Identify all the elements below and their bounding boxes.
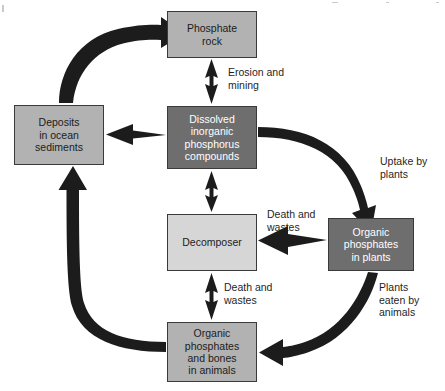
node-dissolved-inorganic-phosphorus: Dissolved inorganic phosphorus compounds <box>167 106 257 169</box>
edge-label-plants-eaten-by-animals: Plants eaten by animals <box>379 281 419 319</box>
edge-animals-to-decomposer <box>205 273 218 320</box>
edge-phosphate-rock-to-dissolved <box>205 59 218 104</box>
node-deposits-ocean-sediments-label: Deposits in ocean sediments <box>15 116 103 153</box>
edge-dissolved-to-decomposer <box>205 171 218 212</box>
edge-dissolved-to-deposits <box>106 124 166 145</box>
edge-label-death-and-wastes-animals: Death and wastes <box>224 281 272 306</box>
node-organic-phosphates-bones-in-animals: Organic phosphates and bones in animals <box>167 322 257 382</box>
node-organic-phosphates-bones-in-animals-label: Organic phosphates and bones in animals <box>168 327 256 377</box>
node-decomposer-label: Decomposer <box>168 236 256 248</box>
edge-label-erosion-and-mining: Erosion and mining <box>228 66 284 91</box>
scan-artifact <box>436 2 439 3</box>
node-deposits-ocean-sediments: Deposits in ocean sediments <box>14 105 104 165</box>
node-phosphate-rock-label: Phosphate rock <box>168 22 256 47</box>
node-decomposer: Decomposer <box>167 214 257 271</box>
edge-animals-to-deposits <box>59 166 167 352</box>
scan-artifact <box>386 2 389 3</box>
node-organic-phosphates-in-plants: Organic phosphates in plants <box>328 218 414 271</box>
edge-plants-to-animals <box>259 272 378 366</box>
node-organic-phosphates-in-plants-label: Organic phosphates in plants <box>329 226 413 263</box>
node-dissolved-inorganic-phosphorus-label: Dissolved inorganic phosphorus compounds <box>168 113 256 163</box>
scan-artifact <box>332 2 338 3</box>
node-phosphate-rock: Phosphate rock <box>167 11 257 58</box>
edge-label-uptake-by-plants: Uptake by plants <box>380 155 427 180</box>
scan-artifact <box>2 5 4 12</box>
edge-label-death-and-wastes-plants: Death and wastes <box>267 208 315 233</box>
phosphorus-cycle-diagram: Phosphate rock Deposits in ocean sedimen… <box>0 0 445 391</box>
